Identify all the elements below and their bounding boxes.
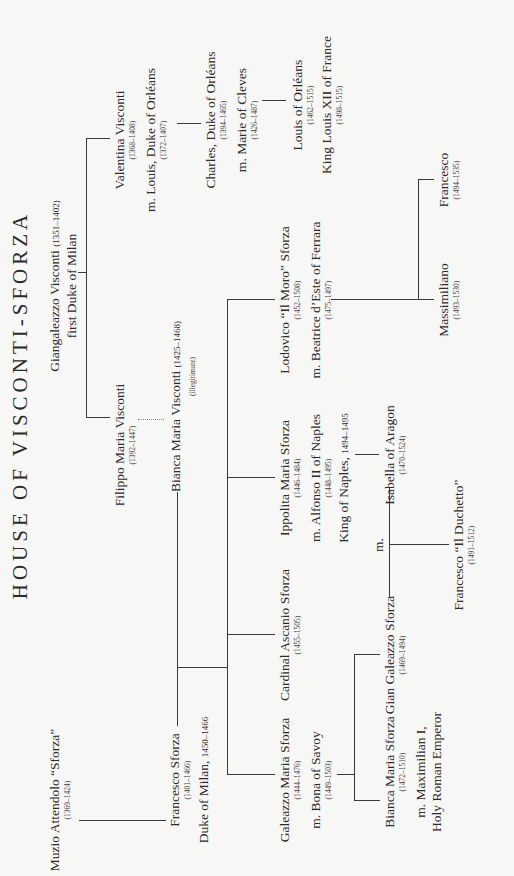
connector (389, 544, 449, 545)
connector (177, 667, 227, 668)
connector (262, 100, 286, 101)
family-tree-diagram: HOUSE OF VISCONTI-SFORZA Giangaleazzo Vi… (0, 0, 514, 876)
connector (227, 477, 275, 478)
node-bianca-visconti: Bianca Maria Visconti (1425–1468) (illeg… (169, 321, 196, 492)
connector (355, 454, 379, 455)
person-title: Duke of Milan, 1450–1466 (197, 717, 211, 844)
node-muzio: Muzio Attendolo “Sforza” (1369–1424) (48, 729, 71, 871)
connector (227, 634, 275, 635)
connector (354, 654, 380, 655)
node-charles: Charles, Duke of Orléans (1394–1465) m. … (204, 51, 258, 188)
person-name: Giangaleazzo Visconti (1351–1402) (48, 200, 62, 371)
node-valentina: Valentina Visconti (1368–1408) m. Louis,… (113, 68, 167, 212)
connector (418, 299, 434, 300)
node-duchetto: Francesco “Il Duchetto” (1491–1512) (452, 479, 475, 610)
node-bianca-sforza: Bianca Maria Sforza (1472–1510) m. Maxim… (383, 712, 443, 832)
connector (79, 820, 166, 821)
connector (418, 179, 434, 180)
connector (354, 800, 380, 801)
connector (354, 655, 355, 801)
node-ascanio: Cardinal Ascanio Sforza (1455–1505) (278, 569, 301, 701)
connector (177, 123, 201, 124)
node-giangaleazzo: Giangaleazzo Visconti (1351–1402) first … (48, 200, 78, 371)
connector (86, 138, 110, 139)
connector (227, 299, 275, 300)
marriage-label: m. (372, 538, 385, 551)
connector (86, 417, 110, 418)
connector (227, 299, 228, 775)
node-filippo: Filippo Maria Visconti (1392–1447) (113, 384, 136, 507)
node-francesco-sforza: Francesco Sforza (1401–1466) Duke of Mil… (168, 717, 211, 844)
connector (86, 138, 87, 418)
illegitimate-connector (138, 419, 164, 420)
node-louis-xii: Louis of Orléans (1462–1515) King Louis … (291, 36, 343, 174)
node-isabella: Isabella of Aragon (1470–1524) (383, 405, 406, 505)
node-galeazzo: Galeazzo Maria Sforza (1444–1476) m. Bon… (278, 718, 332, 842)
node-massimiliano: Massimiliano (1493–1530) (437, 263, 460, 337)
connector (177, 492, 178, 726)
connector (337, 774, 354, 775)
node-ippolita: Ippolita Maria Sforza (1446–1484) m. Alf… (278, 413, 351, 543)
node-lodovico: Lodovico “Il Moro” Sforza (1452–1508) m.… (278, 221, 332, 378)
person-title: first Duke of Milan (65, 200, 79, 371)
diagram-title: HOUSE OF VISCONTI-SFORZA (8, 211, 33, 599)
person-title: King of Naples, 1494–1495 (337, 413, 351, 543)
node-francesco-1494: Francesco (1494–1535) (437, 153, 460, 208)
node-gian-galeazzo: Gian Galeazzo Sforza (1469–1494) (383, 596, 406, 714)
connector (331, 299, 418, 300)
connector (418, 180, 419, 300)
person-name: Bianca Maria Visconti (1425–1468) (169, 321, 183, 492)
connector (227, 774, 275, 775)
